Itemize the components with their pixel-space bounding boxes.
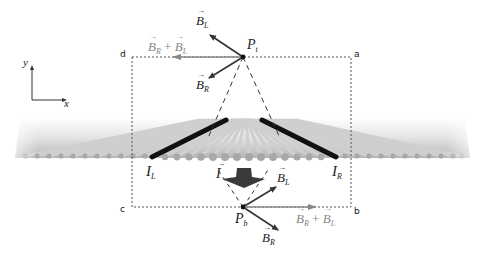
vector-bl-top-label: BL xyxy=(196,14,208,30)
corner-b-label: b xyxy=(354,207,360,216)
axes-icon xyxy=(30,65,67,102)
vector-bl-bottom-label: BL xyxy=(277,171,289,187)
point-bottom-label: Pb xyxy=(235,212,248,228)
vector-sum-bottom-label: BR + BL xyxy=(296,212,335,228)
current-center-label: I xyxy=(216,167,221,181)
vector-sum-top-label: BR + BL xyxy=(148,40,187,56)
corner-d-label: d xyxy=(120,50,126,59)
y-axis-label: y xyxy=(23,57,28,68)
current-right-label: IR xyxy=(332,164,342,181)
vector-br-bottom-label: BR xyxy=(262,231,275,247)
x-axis-label: x xyxy=(64,98,69,109)
diagram-canvas: y x d a c b Pt Pb BL BR BR + BL BL BR BR… xyxy=(0,0,485,258)
vector-br-top-label: BR xyxy=(196,78,209,94)
current-left-label: IL xyxy=(146,164,155,181)
point-top-label: Pt xyxy=(247,38,258,54)
wire-sheet xyxy=(0,112,485,162)
corner-c-label: c xyxy=(120,205,125,214)
corner-a-label: a xyxy=(354,50,360,59)
